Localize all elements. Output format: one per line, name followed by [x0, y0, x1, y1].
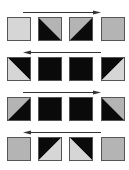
tile	[101, 17, 125, 41]
arrow-right-icon	[23, 8, 101, 16]
tile	[7, 57, 31, 81]
tile	[101, 137, 125, 161]
tile-fill	[8, 138, 30, 160]
arrow-left-icon	[23, 128, 101, 136]
tile	[7, 17, 31, 41]
row-4	[0, 128, 129, 168]
tile	[101, 57, 125, 81]
tile	[7, 97, 31, 121]
tile	[38, 137, 62, 161]
tile-fill	[8, 18, 30, 40]
tile-fill	[8, 58, 30, 80]
tile-fill	[102, 138, 124, 160]
tile	[38, 57, 62, 81]
tile-fill	[70, 18, 92, 40]
tile-fill	[102, 18, 124, 40]
tile	[69, 137, 93, 161]
tile-fill	[39, 18, 61, 40]
tile-fill	[39, 58, 61, 80]
tile-fill	[8, 98, 30, 120]
tile	[101, 97, 125, 121]
tile	[7, 137, 31, 161]
tile-fill	[102, 98, 124, 120]
tile-fill	[39, 138, 61, 160]
tile	[69, 97, 93, 121]
tile	[38, 97, 62, 121]
arrow-right-icon	[23, 88, 101, 96]
tile	[38, 17, 62, 41]
tile-fill	[70, 58, 92, 80]
tile	[69, 57, 93, 81]
arrow-left-icon	[23, 48, 101, 56]
tile	[69, 17, 93, 41]
tile-fill	[102, 58, 124, 80]
tile-fill	[70, 98, 92, 120]
row-1	[0, 8, 129, 48]
tile-fill	[70, 138, 92, 160]
row-3	[0, 88, 129, 128]
tile-fill	[39, 98, 61, 120]
row-2	[0, 48, 129, 88]
